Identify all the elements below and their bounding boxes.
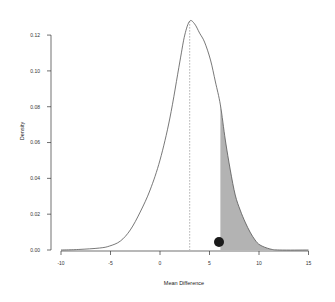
y-axis-title: Density — [19, 122, 25, 141]
x-tick-label: 0 — [159, 260, 162, 266]
y-tick-label: 0.12 — [30, 32, 40, 38]
x-tick-label: 15 — [306, 260, 312, 266]
y-tick-label: 0.02 — [30, 211, 40, 217]
shaded-tail-region — [220, 105, 308, 250]
x-tick-label: 5 — [208, 260, 211, 266]
x-axis-title: Mean Difference — [164, 280, 204, 286]
density-curve — [61, 20, 309, 250]
y-tick-label: 0.04 — [30, 175, 40, 181]
x-tick-label: -10 — [57, 260, 64, 266]
y-tick-label: 0.00 — [30, 247, 40, 253]
y-tick-label: 0.10 — [30, 68, 40, 74]
x-tick-label: -5 — [108, 260, 113, 266]
density-plot: 0.000.020.040.060.080.100.12 -10-5051015… — [0, 0, 335, 302]
observed-point — [214, 237, 224, 247]
y-tick-label: 0.08 — [30, 104, 40, 110]
x-axis: -10-5051015 — [57, 251, 311, 266]
y-axis: 0.000.020.040.060.080.100.12 — [30, 32, 51, 253]
x-tick-label: 10 — [256, 260, 262, 266]
y-tick-label: 0.06 — [30, 139, 40, 145]
